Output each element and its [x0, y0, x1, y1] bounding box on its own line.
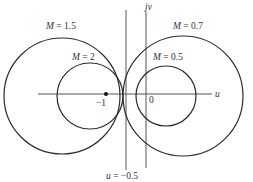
circle-m-2: [57, 63, 123, 129]
tick-zero: 0: [149, 95, 154, 105]
circle-m-0-5: [136, 66, 196, 126]
label-u: u: [215, 89, 220, 99]
label-m-2: M = 2: [71, 52, 95, 62]
label-u-minus-half: u = −0.5: [106, 171, 138, 181]
critical-point-dot: [104, 92, 108, 96]
circle-m-1-5: [4, 38, 120, 154]
label-m-1-5: M = 1.5: [45, 21, 76, 31]
tick-minus-one: −1: [96, 98, 106, 108]
label-jv: jv: [143, 2, 153, 12]
label-m-0-5: M = 0.5: [152, 52, 183, 62]
label-m-0-7: M = 0.7: [172, 21, 203, 31]
m-circles-diagram: M = 1.5 M = 2 M = 0.7 M = 0.5 jv u −1 0 …: [0, 0, 253, 182]
circle-m-0-7: [123, 36, 243, 156]
